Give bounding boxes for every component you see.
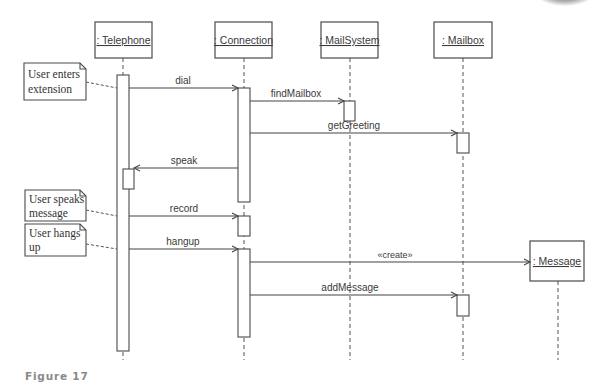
figure-caption: Figure 17 xyxy=(25,370,89,382)
sequence-diagram: : Telephone : Connection : MailSystem : … xyxy=(0,0,606,387)
object-label-telephone: : Telephone xyxy=(96,34,150,46)
object-telephone: : Telephone xyxy=(95,22,152,58)
message-create: «create» xyxy=(250,250,530,265)
message-label: speak xyxy=(171,155,199,166)
note-connector xyxy=(86,210,117,216)
activation-mailbox-greeting xyxy=(457,133,469,153)
object-label-mailbox: : Mailbox xyxy=(442,34,485,46)
message-label: hangup xyxy=(166,236,200,247)
message-hangup: hangup xyxy=(129,236,238,252)
note-text-line: User speaks xyxy=(29,193,85,206)
message-findmailbox: findMailbox xyxy=(250,88,344,104)
note-user-speaks-message: User speaks message xyxy=(25,190,117,221)
activation-telephone-main xyxy=(117,75,129,351)
object-mailsystem: : MailSystem xyxy=(319,22,379,58)
message-label: getGreeting xyxy=(328,120,380,131)
message-label: addMessage xyxy=(321,282,379,293)
activation-connection-hangup xyxy=(238,249,250,337)
message-getgreeting: getGreeting xyxy=(250,120,457,136)
note-text-line: extension xyxy=(28,83,72,95)
message-addmessage: addMessage xyxy=(250,282,457,298)
message-record: record xyxy=(129,203,238,219)
note-connector xyxy=(86,244,117,249)
message-label: findMailbox xyxy=(271,88,322,99)
message-label: record xyxy=(170,203,198,214)
note-text-line: up xyxy=(29,241,41,254)
note-text-line: User enters xyxy=(28,68,81,80)
message-speak: speak xyxy=(134,155,238,171)
note-user-enters-extension: User enters extension xyxy=(24,63,117,100)
object-label-message: : Message xyxy=(533,255,582,267)
object-mailbox: : Mailbox xyxy=(434,22,492,58)
note-connector xyxy=(86,82,117,88)
message-label: dial xyxy=(175,75,191,86)
activation-connection-dial xyxy=(238,88,250,202)
object-connection: : Connection xyxy=(214,22,273,58)
note-text-line: User hangs xyxy=(29,227,81,240)
activation-telephone-speak xyxy=(123,169,134,189)
activation-connection-record xyxy=(238,216,250,236)
object-label-connection: : Connection xyxy=(214,34,273,46)
activation-mailsystem xyxy=(344,101,355,121)
object-label-mailsystem: : MailSystem xyxy=(319,34,379,46)
note-text-line: message xyxy=(29,207,68,220)
activation-mailbox-addmessage xyxy=(457,295,469,316)
object-message: : Message xyxy=(530,241,584,281)
message-label: «create» xyxy=(377,250,412,260)
message-dial: dial xyxy=(129,75,238,91)
note-user-hangs-up: User hangs up xyxy=(25,224,117,256)
